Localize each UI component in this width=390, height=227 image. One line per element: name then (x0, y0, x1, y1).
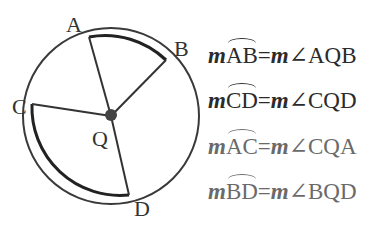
arc-cd-label: CD (226, 89, 258, 112)
arc-ab-label: AB (226, 44, 258, 67)
label-c: C (12, 96, 27, 118)
equation-ab: mAB=m∠AQB (208, 44, 357, 67)
radius-qc (32, 104, 111, 116)
label-b: B (174, 38, 189, 60)
radius-qa (89, 37, 111, 116)
equation-bd: mBD=m∠BQD (208, 180, 357, 203)
arc-ac-label: AC (226, 135, 258, 158)
equation-cd: mCD=m∠CQD (208, 89, 357, 112)
equation-ac: mAC=m∠CQA (208, 135, 357, 158)
label-q: Q (92, 128, 108, 150)
label-a: A (66, 14, 82, 36)
radius-qb (111, 60, 166, 116)
arc-bd-label: BD (226, 180, 258, 203)
label-d: D (134, 198, 150, 220)
center-point (105, 109, 117, 121)
radius-qd (111, 116, 129, 195)
